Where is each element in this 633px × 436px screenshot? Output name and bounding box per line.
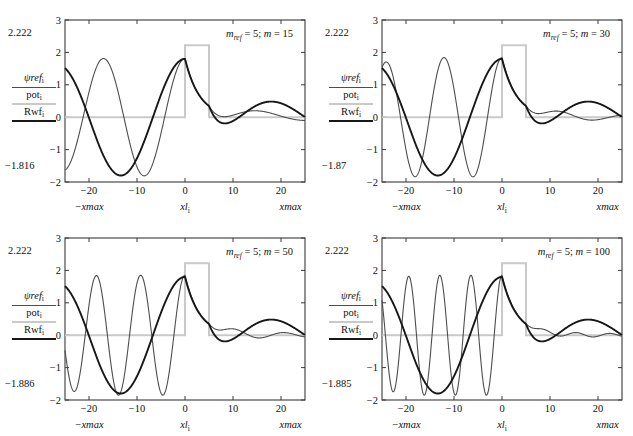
x-axis-name-center: xli [496, 419, 507, 433]
chart-panel-2: −20−10010203210−1−2mref = 5; m = 30−xmax… [317, 0, 633, 218]
axis-ticks: −20−10010203210−1−2 [367, 15, 622, 196]
legend-swatch-pot [329, 103, 373, 105]
y-tick-label: 1 [56, 79, 61, 90]
y-axis-legend: ψrefipotiRwfi [12, 73, 56, 124]
y-axis-legend: ψrefipotiRwfi [12, 291, 56, 342]
legend-label-psiref: ψrefi [329, 73, 373, 85]
y-tick-label: 2 [56, 265, 61, 276]
axis-ticks: −20−10010203210−1−2 [50, 15, 305, 196]
legend-swatch-psiref [12, 305, 56, 306]
x-tick-label: 20 [593, 185, 604, 196]
y-min-annotation: −1.87 [322, 160, 346, 171]
x-axis-names: −xmaxxlixmax [391, 419, 619, 433]
x-axis-name-right: xmax [279, 419, 302, 430]
y-max-annotation: 2.222 [325, 245, 349, 256]
legend-swatch-rwf [12, 338, 56, 340]
x-tick-label: 20 [593, 403, 604, 414]
legend-label-rwf: Rwfi [12, 107, 56, 119]
x-axis-name-center: xli [179, 201, 190, 215]
legend-label-rwf: Rwfi [329, 107, 373, 119]
x-tick-label: 10 [545, 185, 556, 196]
x-tick-label: 0 [499, 403, 504, 414]
x-axis-names: −xmaxxlixmax [74, 201, 302, 215]
y-tick-label: 3 [373, 233, 378, 244]
x-axis-names: −xmaxxlixmax [391, 201, 619, 215]
y-tick-label: 2 [373, 265, 378, 276]
panel-title: mref = 5; m = 30 [543, 28, 610, 42]
y-axis-legend: ψrefipotiRwfi [329, 291, 373, 342]
legend-swatch-psiref [329, 87, 373, 88]
x-tick-label: −10 [446, 185, 462, 196]
x-tick-label: −20 [81, 185, 97, 196]
legend-label-pot: poti [329, 308, 373, 320]
y-tick-label: −1 [367, 362, 378, 373]
legend-swatch-pot [329, 321, 373, 323]
y-min-annotation: −1.885 [322, 378, 352, 389]
panel-title: mref = 5; m = 100 [538, 246, 610, 260]
legend-swatch-rwf [12, 120, 56, 122]
x-tick-label: −20 [398, 403, 414, 414]
data-curves [65, 263, 305, 395]
y-max-annotation: 2.222 [8, 245, 32, 256]
y-tick-label: 3 [373, 15, 378, 26]
x-tick-label: −10 [129, 185, 145, 196]
chart-panel-4: −20−10010203210−1−2mref = 5; m = 100−xma… [317, 218, 633, 436]
data-curves [382, 45, 622, 177]
y-tick-label: −2 [50, 395, 61, 406]
y-tick-label: 1 [373, 79, 378, 90]
y-axis-legend: ψrefipotiRwfi [329, 73, 373, 124]
legend-swatch-psiref [12, 87, 56, 88]
x-axis-name-left: −xmax [74, 201, 104, 212]
y-tick-label: −2 [50, 177, 61, 188]
x-axis-name-left: −xmax [74, 419, 104, 430]
y-tick-label: 1 [373, 297, 378, 308]
x-axis-name-right: xmax [596, 201, 619, 212]
data-curves [65, 45, 305, 176]
y-tick-label: 1 [56, 297, 61, 308]
chart-panel-3: −20−10010203210−1−2mref = 5; m = 50−xmax… [0, 218, 316, 436]
legend-label-rwf: Rwfi [329, 325, 373, 337]
x-tick-label: 10 [228, 403, 239, 414]
data-curves [382, 263, 622, 395]
curve-pot [65, 45, 305, 117]
x-tick-label: −10 [446, 403, 462, 414]
axis-ticks: −20−10010203210−1−2 [367, 233, 622, 414]
legend-swatch-pot [12, 321, 56, 323]
x-tick-label: 0 [182, 185, 187, 196]
x-tick-label: −20 [81, 403, 97, 414]
y-tick-label: −2 [367, 177, 378, 188]
x-tick-label: 20 [276, 403, 287, 414]
legend-swatch-pot [12, 103, 56, 105]
y-tick-label: 2 [373, 47, 378, 58]
x-axis-name-right: xmax [596, 419, 619, 430]
y-tick-label: 0 [373, 112, 378, 123]
y-tick-label: 0 [56, 330, 61, 341]
x-axis-names: −xmaxxlixmax [74, 419, 302, 433]
y-tick-label: −1 [50, 362, 61, 373]
legend-label-pot: poti [329, 90, 373, 102]
x-axis-name-right: xmax [279, 201, 302, 212]
x-tick-label: 0 [182, 403, 187, 414]
x-tick-label: 0 [499, 185, 504, 196]
y-tick-label: 3 [56, 15, 61, 26]
y-tick-label: −1 [50, 144, 61, 155]
x-tick-label: −20 [398, 185, 414, 196]
x-axis-name-left: −xmax [391, 201, 421, 212]
y-tick-label: 2 [56, 47, 61, 58]
legend-swatch-rwf [329, 338, 373, 340]
y-tick-label: −2 [367, 395, 378, 406]
x-tick-label: −10 [129, 403, 145, 414]
legend-label-pot: poti [12, 308, 56, 320]
chart-panel-1: −20−10010203210−1−2mref = 5; m = 15−xmax… [0, 0, 316, 218]
x-tick-label: 20 [276, 185, 287, 196]
panel-title: mref = 5; m = 50 [226, 246, 293, 260]
legend-swatch-psiref [329, 305, 373, 306]
legend-label-rwf: Rwfi [12, 325, 56, 337]
legend-label-psiref: ψrefi [12, 73, 56, 85]
figure-canvas: −20−10010203210−1−2mref = 5; m = 15−xmax… [0, 0, 633, 436]
x-tick-label: 10 [545, 403, 556, 414]
y-min-annotation: −1.816 [5, 160, 35, 171]
legend-label-pot: poti [12, 90, 56, 102]
y-tick-label: 0 [373, 330, 378, 341]
x-axis-name-center: xli [179, 419, 190, 433]
